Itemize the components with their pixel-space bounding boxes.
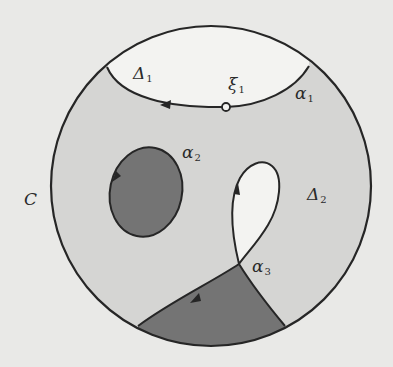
label-C-text: C [24,189,37,209]
xi1-point [222,103,230,111]
label-delta1-base: Δ [133,63,145,83]
label-delta2-base: Δ [307,184,319,204]
label-alpha3-base: α [252,256,263,276]
label-delta2: Δ2 [307,186,327,205]
label-alpha2-base: α [182,142,193,162]
diagram-canvas [0,0,393,367]
label-alpha1-base: α [295,83,306,103]
label-alpha1-sub: 1 [307,93,313,104]
label-xi1-sub: 1 [238,84,244,95]
label-alpha3-sub: 3 [264,266,270,277]
label-alpha2-sub: 2 [194,152,200,163]
label-delta1: Δ1 [133,65,153,84]
label-C: C [24,191,37,208]
label-alpha3: α3 [252,258,271,277]
label-alpha1: α1 [295,85,314,104]
region-delta1-fill [107,0,309,107]
label-xi1-base: ξ [228,74,237,94]
label-delta1-sub: 1 [146,73,152,84]
label-alpha2: α2 [182,144,201,163]
diagram: C Δ1 ξ1 α1 α2 Δ2 α3 [0,0,393,367]
label-delta2-sub: 2 [320,194,326,205]
label-xi1: ξ1 [228,76,245,95]
